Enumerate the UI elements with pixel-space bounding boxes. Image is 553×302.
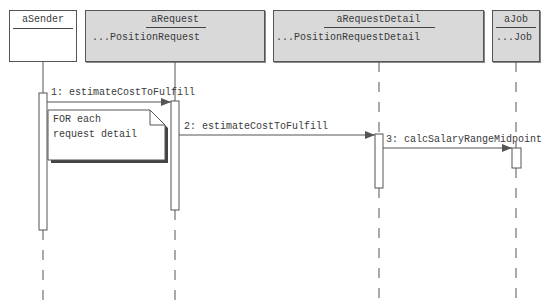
activation-arequest	[171, 101, 179, 210]
activation-asender	[39, 93, 47, 230]
message-label-2[interactable]: 2: estimateCostToFulfill	[184, 121, 328, 132]
message-label-1[interactable]: 1: estimateCostToFulfill	[51, 87, 195, 98]
activation-arequestdetail	[375, 134, 383, 188]
activation-ajob	[512, 148, 521, 168]
loop-note[interactable]: FOR each request detail	[53, 112, 137, 142]
note-line-2: request detail	[53, 127, 137, 142]
sequence-diagram-canvas	[0, 0, 553, 302]
note-line-1: FOR each	[53, 112, 137, 127]
message-label-3[interactable]: 3: calcSalaryRangeMidpoint	[386, 134, 542, 145]
